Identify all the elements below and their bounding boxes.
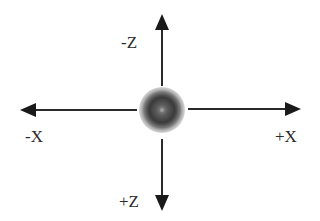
pos-x-label: +X (275, 128, 297, 145)
pos-z-arrow (155, 139, 169, 211)
axes-diagram (0, 0, 320, 221)
neg-z-arrow (155, 14, 169, 86)
neg-x-arrow (20, 103, 137, 117)
neg-z-label: -Z (121, 34, 137, 51)
neg-x-label: -X (25, 128, 43, 145)
origin-sphere (139, 87, 185, 133)
pos-x-arrow (188, 102, 301, 116)
pos-z-label: +Z (119, 193, 139, 210)
